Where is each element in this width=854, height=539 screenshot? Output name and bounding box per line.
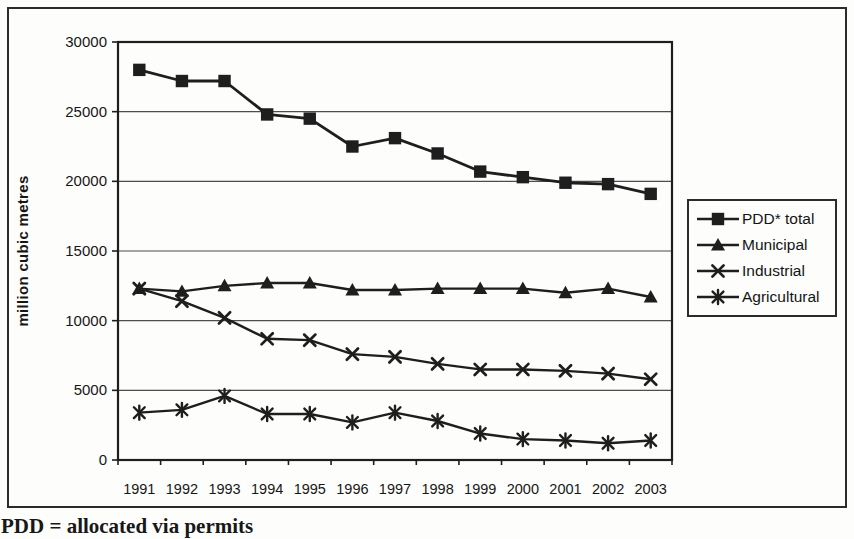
y-tick-label: 0	[99, 451, 107, 468]
square-marker	[431, 147, 443, 159]
x-tick-label: 2003	[635, 481, 667, 497]
x-tick-label: 2000	[507, 481, 539, 497]
square-marker	[346, 140, 358, 152]
square-marker	[389, 132, 401, 144]
x-tick-label: 1997	[379, 481, 411, 497]
triangle-marker	[601, 282, 615, 294]
x-tick-label: 1993	[208, 481, 240, 497]
square-marker	[712, 213, 724, 225]
legend-label: PDD* total	[742, 210, 814, 228]
legend-item-industrial: Industrial	[696, 258, 833, 284]
series-line	[139, 70, 650, 194]
x-tick-label: 1996	[336, 481, 368, 497]
series-industrial	[134, 283, 657, 385]
legend-item-municipal: Municipal	[696, 232, 833, 258]
x-tick-label: 1992	[166, 481, 198, 497]
y-tick-label: 25000	[65, 103, 107, 120]
y-tick-label: 5000	[74, 381, 107, 398]
y-tick-label: 10000	[65, 312, 107, 329]
square-marker	[644, 188, 656, 200]
y-tick-label: 20000	[65, 172, 107, 189]
series-pdd-total	[133, 64, 657, 200]
square-marker	[176, 75, 188, 87]
series-line	[139, 289, 650, 380]
x-marker	[219, 312, 230, 323]
x-tick-label: 2002	[592, 481, 624, 497]
x-tick-label: 1994	[251, 481, 283, 497]
y-axis-title: million cubic metres	[14, 175, 31, 326]
legend-label: Agricultural	[742, 288, 820, 306]
x-tick-label: 2001	[549, 481, 581, 497]
x-legend-glyph	[696, 261, 740, 281]
legend-item-agricultural: Agricultural	[696, 284, 833, 310]
y-tick-label: 15000	[65, 242, 107, 259]
square-marker	[559, 177, 571, 189]
asterisk-legend-glyph	[696, 287, 740, 307]
legend-label: Industrial	[742, 262, 805, 280]
square-marker	[261, 108, 273, 120]
series-agricultural	[134, 389, 656, 450]
footnote: PDD = allocated via permits	[1, 514, 253, 539]
legend: PDD* totalMunicipalIndustrialAgricultura…	[687, 199, 837, 317]
square-marker	[304, 112, 316, 124]
legend-item-pdd-total: PDD* total	[696, 206, 833, 232]
triangle-legend-glyph	[696, 235, 740, 255]
x-tick-label: 1999	[464, 481, 496, 497]
x-tick-label: 1995	[294, 481, 326, 497]
x-tick-label: 1998	[421, 481, 453, 497]
square-marker	[474, 165, 486, 177]
square-marker	[133, 64, 145, 76]
square-legend-glyph	[696, 209, 740, 229]
square-marker	[602, 178, 614, 190]
x-tick-label: 1991	[123, 481, 155, 497]
y-tick-label: 30000	[65, 33, 107, 50]
square-marker	[517, 171, 529, 183]
legend-label: Municipal	[742, 236, 807, 254]
series-municipal	[132, 276, 657, 302]
square-marker	[218, 75, 230, 87]
